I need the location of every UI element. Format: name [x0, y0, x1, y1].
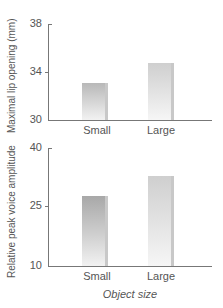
- x-category-label: Large: [136, 124, 186, 136]
- x-axis: [48, 266, 212, 267]
- y-axis-label: Maximal lip opening (mm): [6, 19, 17, 133]
- y-tick-label: 10: [20, 259, 42, 271]
- chart-voice-amplitude: Relative peak voice amplitude 40 25 10 S…: [0, 140, 223, 308]
- bar-small: [82, 83, 108, 120]
- bar-large: [148, 176, 174, 266]
- y-tick-label: 34: [20, 65, 42, 77]
- y-tick: [48, 24, 52, 25]
- y-tick: [48, 148, 52, 149]
- x-category-label: Large: [136, 270, 186, 282]
- chart-lip-opening: Maximal lip opening (mm) 38 34 30 Small …: [0, 0, 223, 140]
- y-tick: [45, 72, 49, 73]
- y-tick-label: 30: [20, 113, 42, 125]
- bar-large: [148, 63, 174, 120]
- y-axis: [48, 148, 49, 267]
- y-tick-label: 25: [20, 199, 42, 211]
- x-axis-label: Object size: [70, 288, 190, 300]
- y-tick-label: 40: [20, 141, 42, 153]
- y-tick-label: 38: [20, 17, 42, 29]
- x-axis: [48, 120, 212, 121]
- x-category-label: Small: [72, 270, 122, 282]
- y-tick: [45, 206, 49, 207]
- x-category-label: Small: [72, 124, 122, 136]
- bar-small: [82, 196, 108, 266]
- y-axis-label: Relative peak voice amplitude: [6, 145, 17, 278]
